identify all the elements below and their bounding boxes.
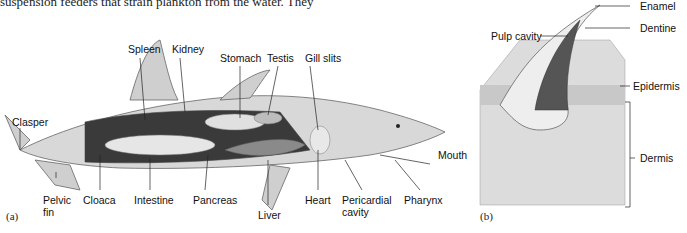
label-clasper: Clasper [12,116,48,128]
label-epidermis: Epidermis [633,80,680,92]
label-spleen: Spleen [128,43,161,55]
panel-label-a: (a) [6,210,18,222]
label-kidney: Kidney [172,43,204,55]
label-testis: Testis [267,52,294,64]
label-heart: Heart [305,194,331,206]
label-pelvic-fin: Pelvic fin [43,194,71,218]
label-gill-slits: Gill slits [305,52,341,64]
label-dermis: Dermis [640,152,673,164]
label-liver: Liver [258,209,281,221]
label-enamel: Enamel [640,0,676,12]
panel-label-b: (b) [480,210,493,222]
label-dentine: Dentine [640,22,676,34]
label-pulp-cavity: Pulp cavity [491,30,542,42]
label-pancreas: Pancreas [193,194,237,206]
label-intestine: Intestine [134,194,174,206]
label-pharynx: Pharynx [404,194,443,206]
label-stomach: Stomach [220,52,261,64]
label-cloaca: Cloaca [83,194,116,206]
shark-body-icon [5,40,445,210]
label-mouth: Mouth [438,149,467,161]
label-pericardial-cavity: Pericardial cavity [342,194,392,218]
